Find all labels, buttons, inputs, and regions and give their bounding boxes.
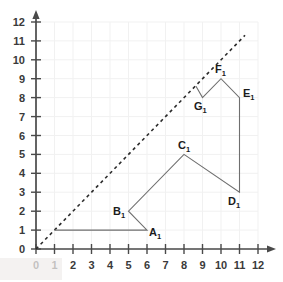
point-label-B1: B1 xyxy=(113,205,125,220)
y-tick-label-3: 3 xyxy=(19,186,25,198)
y-tick-label-4: 4 xyxy=(19,167,26,179)
y-tick-label-2: 2 xyxy=(19,205,25,217)
x-tick-label-12: 12 xyxy=(252,259,264,271)
mirror-line-y-equals-x xyxy=(36,35,245,249)
x-axis-tick-labels: 0 1 2 3 4 5 6 7 8 9 10 11 12 xyxy=(33,259,264,271)
plot-svg: 0 1 2 3 4 5 6 7 8 9 10 11 12 0 1 2 3 4 5… xyxy=(0,0,283,282)
y-tick-label-7: 7 xyxy=(19,111,25,123)
point-label-D1: D1 xyxy=(228,195,240,210)
x-tick-label-6: 6 xyxy=(144,259,150,271)
x-tick-label-9: 9 xyxy=(199,259,205,271)
point-label-G1: G1 xyxy=(194,100,207,115)
point-label-A1: A1 xyxy=(149,226,161,241)
x-tick-label-1: 1 xyxy=(51,259,57,271)
y-tick-label-1: 1 xyxy=(19,224,25,236)
x-tick-label-4: 4 xyxy=(107,259,114,271)
x-tick-label-5: 5 xyxy=(125,259,131,271)
y-tick-label-10: 10 xyxy=(13,54,25,66)
x-tick-label-3: 3 xyxy=(88,259,94,271)
y-axis-arrow xyxy=(32,10,39,19)
y-tick-label-8: 8 xyxy=(19,92,25,104)
point-label-E1: E1 xyxy=(243,87,255,102)
y-tick-label-11: 11 xyxy=(13,35,25,47)
point-label-F1: F1 xyxy=(215,63,226,78)
x-tick-label-7: 7 xyxy=(162,259,168,271)
y-tick-label-5: 5 xyxy=(19,148,25,160)
y-tick-label-9: 9 xyxy=(19,73,25,85)
x-tick-label-0: 0 xyxy=(33,259,39,271)
x-tick-label-10: 10 xyxy=(215,259,227,271)
x-axis-arrow xyxy=(267,245,276,252)
x-tick-label-2: 2 xyxy=(70,259,76,271)
y-axis-tick-labels: 0 1 2 3 4 5 6 7 8 9 10 11 12 xyxy=(13,16,26,255)
x-tick-label-11: 11 xyxy=(234,259,246,271)
y-tick-label-12: 12 xyxy=(13,16,25,28)
y-tick-label-6: 6 xyxy=(19,130,25,142)
coordinate-plane-figure: 0 1 2 3 4 5 6 7 8 9 10 11 12 0 1 2 3 4 5… xyxy=(0,0,283,282)
y-tick-label-0: 0 xyxy=(19,243,25,255)
x-tick-label-8: 8 xyxy=(181,259,187,271)
